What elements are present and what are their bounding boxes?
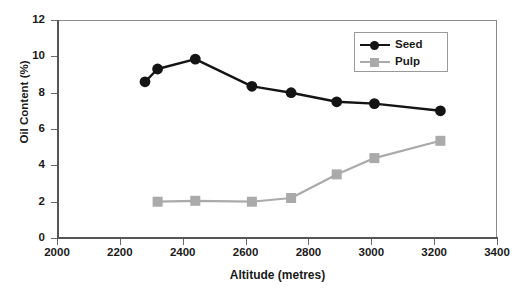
seed-swatch — [360, 38, 390, 52]
x-tick-label: 3400 — [469, 247, 524, 259]
y-tick — [51, 93, 57, 94]
x-tick-label: 3200 — [406, 247, 462, 259]
x-tick — [120, 239, 121, 245]
y-tick — [51, 202, 57, 203]
legend-item-pulp: Pulp — [355, 53, 447, 70]
x-tick-label: 2800 — [280, 247, 336, 259]
x-tick — [308, 239, 309, 245]
y-tick — [51, 165, 57, 166]
x-tick-label: 2600 — [218, 247, 274, 259]
x-tick — [246, 239, 247, 245]
oil-content-altitude-chart: 024681012 200022002400260028003000320034… — [0, 0, 524, 297]
y-tick — [51, 20, 57, 21]
x-tick-label: 2200 — [92, 247, 148, 259]
x-tick — [434, 239, 435, 245]
legend-label-pulp: Pulp — [390, 56, 420, 68]
x-axis-line — [57, 237, 498, 239]
x-tick — [497, 239, 498, 245]
y-tick-label: 2 — [11, 196, 45, 208]
x-tick-label: 2000 — [29, 247, 85, 259]
x-tick-label: 2400 — [155, 247, 211, 259]
legend-label-seed: Seed — [390, 39, 423, 51]
legend-item-seed: Seed — [355, 36, 447, 53]
x-tick — [57, 239, 58, 245]
y-tick-label: 0 — [11, 232, 45, 244]
y-axis-line — [57, 20, 59, 239]
x-tick — [183, 239, 184, 245]
x-tick — [371, 239, 372, 245]
circle-marker-icon — [370, 41, 379, 50]
y-tick — [51, 129, 57, 130]
x-tick-label: 3000 — [343, 247, 399, 259]
y-tick — [51, 56, 57, 57]
chart-legend: Seed Pulp — [354, 32, 448, 72]
x-axis-title: Altitude (metres) — [57, 268, 498, 282]
pulp-swatch — [360, 55, 390, 69]
y-tick-label: 12 — [11, 14, 45, 26]
square-marker-icon — [370, 58, 379, 67]
y-axis-title: Oil Content (%) — [18, 42, 30, 162]
